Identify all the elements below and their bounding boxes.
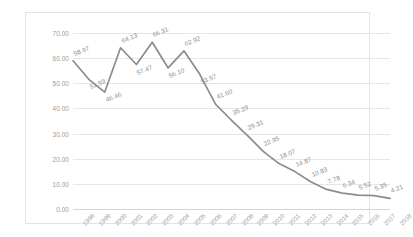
x-tick-label: 2016: [366, 212, 381, 227]
y-tick-label: 70.00: [53, 30, 70, 37]
data-label: 4.21: [389, 183, 404, 194]
y-tick-label: 0.00: [56, 206, 69, 213]
x-tick-label: 2007: [224, 212, 239, 227]
x-tick-label: 2001: [129, 212, 144, 227]
x-tick-label: 2004: [176, 212, 191, 227]
x-tick-label: 1999: [97, 212, 112, 227]
x-tick-label: 2003: [160, 212, 175, 227]
x-tick-label: 2008: [240, 212, 255, 227]
y-tick-label: 20.00: [53, 155, 70, 162]
y-tick-label: 10.00: [53, 180, 70, 187]
series-polyline: [73, 42, 390, 198]
x-tick-label: 2006: [208, 212, 223, 227]
x-tick-label: 2017: [382, 212, 397, 227]
x-tick-label: 2000: [113, 212, 128, 227]
x-tick-label: 2011: [287, 212, 301, 226]
x-tick-label: 2010: [271, 212, 286, 227]
x-tick-label: 2002: [144, 212, 159, 227]
x-tick-label: 1998: [81, 212, 96, 227]
x-tick-label: 2018: [398, 212, 413, 227]
x-tick-label: 2009: [255, 212, 270, 227]
y-tick-label: 40.00: [53, 105, 70, 112]
chart-frame: 70.0060.0050.0040.0030.0020.0010.000.00 …: [25, 12, 370, 224]
x-tick-label: 2012: [303, 212, 318, 227]
y-tick-label: 30.00: [53, 130, 70, 137]
x-tick-label: 2015: [350, 212, 365, 227]
x-tick-label: 2014: [335, 212, 350, 227]
y-tick-label: 60.00: [53, 55, 70, 62]
y-tick-label: 50.00: [53, 80, 70, 87]
x-tick-label: 2005: [192, 212, 207, 227]
x-axis-line: [73, 209, 390, 210]
plot-area: 70.0060.0050.0040.0030.0020.0010.000.00 …: [73, 33, 390, 209]
x-tick-label: 2013: [319, 212, 334, 227]
